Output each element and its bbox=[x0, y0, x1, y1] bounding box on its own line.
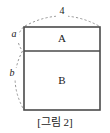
figure-2-diagram: 4 a b A B [그림 2] bbox=[0, 0, 110, 133]
upper-height-label: a bbox=[12, 28, 17, 39]
lower-height-label: b bbox=[10, 67, 15, 78]
figure-caption: [그림 2] bbox=[37, 116, 73, 128]
region-label-a: A bbox=[58, 32, 66, 44]
figure-container: 4 a b A B [그림 2] bbox=[0, 0, 110, 133]
region-label-b: B bbox=[58, 74, 65, 86]
top-width-label: 4 bbox=[60, 5, 65, 16]
lower-height-arc bbox=[15, 51, 24, 110]
